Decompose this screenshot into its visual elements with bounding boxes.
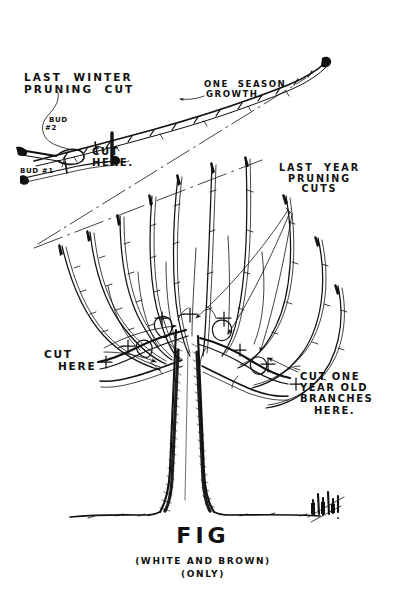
caption-title: FIG (0, 524, 406, 549)
label-cut-here-left: CUTHERE (44, 349, 96, 373)
ground-line (70, 513, 320, 518)
label-cut-here-inset: CUTHERE. (92, 146, 134, 168)
leader-cut-one-year-old (268, 358, 300, 372)
construction-line-upper (38, 78, 306, 244)
drawing-sheet: .ink{fill:none;stroke:#111;stroke-lineca… (0, 0, 406, 605)
label-bud-1: BUD #1 (20, 168, 54, 176)
caption-qualifier: (ONLY) (0, 569, 406, 579)
leader-one-season-growth (180, 96, 204, 99)
label-cut-one-year-old-branches: CUT ONEYEAR OLDBRANCHESHERE. (300, 371, 373, 416)
caption-subtitle: (WHITE AND BROWN) (0, 556, 406, 566)
label-one-season-growth: ONE SEASONGROWTH. (204, 80, 286, 99)
construction-line-lower (34, 160, 262, 248)
label-last-year-pruning-cuts: LAST YEARPRUNINGCUTS (279, 163, 360, 195)
label-last-winter-pruning-cut: LAST WINTERPRUNING CUT (24, 72, 134, 96)
artist-signature (308, 492, 344, 522)
leaders-last-year-cuts (196, 208, 292, 352)
label-bud-2: BUD#2 (49, 117, 68, 133)
